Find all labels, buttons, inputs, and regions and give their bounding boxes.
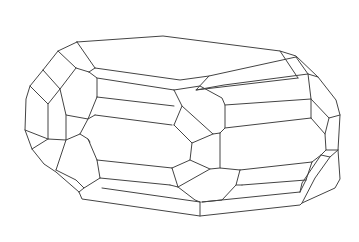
facet-edge [306,162,312,180]
facet-edge [311,118,325,134]
facet-edge [102,188,200,202]
facet-edge [100,178,170,185]
facet-edge [48,104,66,140]
facet-edge [43,68,76,89]
facet-edge [178,169,210,187]
facet-edge [172,143,192,168]
facet-edge [30,86,60,104]
facet-edge [89,72,97,97]
facet-edge [60,89,97,119]
facet-edge [240,162,312,170]
crystal-outline [25,36,340,216]
facet-edge [225,118,311,128]
facet-edge [97,97,174,106]
facet-edge [196,78,298,90]
facet-edge [97,160,172,168]
facet-edge [97,78,174,90]
facet-edge [280,51,298,78]
facet-edge [80,134,97,160]
facet-edge [89,68,95,72]
facet-edge [97,160,100,178]
facet-edge [236,170,242,185]
facet-edge [174,86,225,133]
facet-edge [311,99,340,118]
crystal-drawing-canvas [0,0,359,242]
facet-edge [170,168,178,187]
facet-edge [321,150,338,157]
facet-edge [190,160,220,169]
facet-edge [32,139,48,149]
facet-edge [325,118,338,150]
facet-edge [242,180,306,185]
facet-edge [95,115,172,125]
facet-edge [58,51,89,72]
facet-edge [174,90,182,125]
facet-edge [220,133,240,170]
facet-edge [95,57,296,80]
crystal-drawing [0,0,359,242]
facet-edge [296,57,311,118]
facet-edge [56,170,100,188]
facet-edge [174,125,213,143]
facet-edge [25,130,48,139]
facet-edge [225,99,311,105]
facet-edge [79,188,84,192]
facet-edge [77,42,95,68]
facet-edge [56,140,66,170]
facet-edge [182,106,220,134]
